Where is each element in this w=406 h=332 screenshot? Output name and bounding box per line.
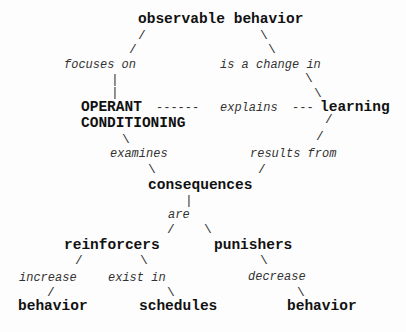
- connector-slash: /: [138, 29, 146, 42]
- connector-pipe: |: [185, 194, 193, 207]
- node-reinforcers: reinforcers: [64, 238, 160, 253]
- node-consequences: consequences: [148, 178, 252, 193]
- node-behavior-right: behavior: [287, 299, 357, 314]
- node-schedules: schedules: [139, 299, 217, 314]
- connector-pipe: |: [111, 86, 119, 99]
- link-exist-in: exist in: [108, 272, 166, 284]
- node-conditioning: CONDITIONING: [81, 116, 185, 131]
- connector-slash: /: [258, 163, 266, 176]
- link-increase: increase: [19, 272, 77, 284]
- connector-backslash: \: [122, 133, 130, 146]
- connector-slash: /: [129, 43, 137, 56]
- link-are: are: [168, 209, 190, 221]
- link-is-a-change-in: is a change in: [220, 59, 321, 71]
- connector-slash: /: [75, 254, 83, 267]
- connector-backslash: \: [148, 163, 156, 176]
- connector-slash: /: [316, 130, 324, 143]
- link-results-from: results from: [250, 148, 336, 160]
- node-observable-behavior: observable behavior: [138, 12, 303, 27]
- node-operant: OPERANT: [81, 100, 142, 115]
- connector-dashes: ---: [292, 102, 314, 114]
- connector-backslash: \: [260, 29, 268, 42]
- link-decrease: decrease: [248, 271, 306, 283]
- link-explains: explains: [220, 102, 278, 114]
- link-examines: examines: [110, 148, 168, 160]
- node-behavior-left: behavior: [18, 299, 88, 314]
- connector-slash: /: [167, 223, 175, 236]
- connector-dashes: ------: [156, 102, 199, 114]
- connector-backslash: \: [305, 72, 313, 85]
- connector-backslash: \: [140, 254, 148, 267]
- connector-backslash: \: [268, 43, 276, 56]
- connector-slash: /: [325, 113, 333, 126]
- link-focuses-on: focuses on: [64, 59, 136, 71]
- node-punishers: punishers: [214, 238, 292, 253]
- connector-backslash: \: [260, 254, 268, 267]
- concept-map: observable behavior / / \ \ focuses on i…: [0, 0, 406, 332]
- connector-backslash: \: [204, 223, 212, 236]
